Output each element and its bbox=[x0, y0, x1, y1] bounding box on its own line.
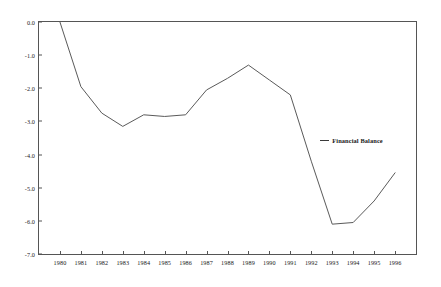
x-axis-tick-label: 1986 bbox=[179, 259, 192, 266]
x-axis-tick-label: 1991 bbox=[284, 259, 297, 266]
x-axis-tick-mark bbox=[290, 251, 291, 254]
y-axis-tick-label: -6.0 bbox=[25, 217, 35, 224]
x-axis-tick-mark bbox=[269, 251, 270, 254]
x-axis-tick-label: 1996 bbox=[389, 259, 402, 266]
y-axis-tick-mark bbox=[39, 154, 42, 155]
y-axis-tick-label: -2.0 bbox=[25, 85, 35, 92]
y-axis-tick-label: -3.0 bbox=[25, 118, 35, 125]
y-axis-tick-label: -4.0 bbox=[25, 151, 35, 158]
x-axis-tick-mark bbox=[186, 251, 187, 254]
series-line-financial-balance bbox=[60, 22, 395, 224]
x-axis-tick-label: 1993 bbox=[326, 259, 339, 266]
annotation-financial-balance: Financial Balance bbox=[332, 137, 383, 144]
x-axis-tick-label: 1988 bbox=[221, 259, 234, 266]
x-axis-tick-label: 1994 bbox=[347, 259, 360, 266]
x-axis-tick-label: 1981 bbox=[74, 259, 87, 266]
x-axis-tick-mark bbox=[353, 251, 354, 254]
x-axis-tick-mark bbox=[311, 251, 312, 254]
x-axis-tick-mark bbox=[332, 251, 333, 254]
x-axis-tick-label: 1989 bbox=[242, 259, 255, 266]
y-axis-tick-mark bbox=[39, 121, 42, 122]
y-axis-tick-mark bbox=[39, 55, 42, 56]
y-axis-tick-mark bbox=[39, 88, 42, 89]
x-axis-tick-mark bbox=[228, 251, 229, 254]
y-axis-tick-mark bbox=[39, 254, 42, 255]
x-axis-tick-mark bbox=[165, 251, 166, 254]
y-axis-tick-label: -5.0 bbox=[25, 184, 35, 191]
x-axis-tick-label: 1995 bbox=[368, 259, 381, 266]
x-axis-tick-mark bbox=[102, 251, 103, 254]
x-axis-tick-mark bbox=[123, 251, 124, 254]
y-axis-tick-mark bbox=[39, 187, 42, 188]
x-axis-tick-label: 1983 bbox=[116, 259, 129, 266]
y-axis-tick-label: 0.0 bbox=[27, 19, 35, 26]
y-axis-tick-mark bbox=[39, 22, 42, 23]
x-axis-tick-mark bbox=[144, 251, 145, 254]
x-axis-tick-mark bbox=[248, 251, 249, 254]
x-axis-tick-label: 1990 bbox=[263, 259, 276, 266]
x-axis-tick-label: 1982 bbox=[95, 259, 108, 266]
x-axis-tick-mark bbox=[395, 251, 396, 254]
x-axis-tick-mark bbox=[60, 251, 61, 254]
x-axis-tick-mark bbox=[374, 251, 375, 254]
y-axis-tick-label: -1.0 bbox=[25, 52, 35, 59]
annotation-leader-line bbox=[320, 140, 329, 141]
x-axis-tick-label: 1980 bbox=[54, 259, 67, 266]
x-axis-tick-label: 1987 bbox=[200, 259, 213, 266]
x-axis-tick-mark bbox=[207, 251, 208, 254]
y-axis-tick-mark bbox=[39, 220, 42, 221]
x-axis-tick-label: 1984 bbox=[137, 259, 150, 266]
y-axis-tick-label: -7.0 bbox=[25, 251, 35, 258]
financial-balance-line-chart: 0.0-1.0-2.0-3.0-4.0-5.0-6.0-7.0198019811… bbox=[0, 0, 441, 287]
x-axis-tick-mark bbox=[81, 251, 82, 254]
x-axis-tick-label: 1985 bbox=[158, 259, 171, 266]
x-axis-tick-label: 1992 bbox=[305, 259, 318, 266]
